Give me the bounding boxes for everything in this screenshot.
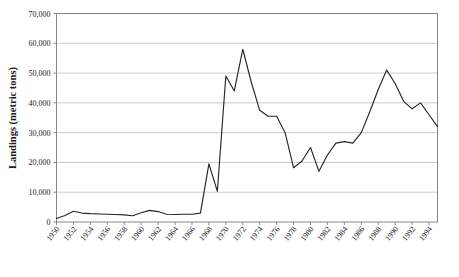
y-tick-label: 20,000 [29, 158, 51, 167]
line-chart: 010,00020,00030,00040,00050,00060,00070,… [0, 0, 459, 277]
y-tick-label: 10,000 [29, 188, 51, 197]
x-tick-label: 1976 [265, 225, 282, 243]
x-tick-label: 1954 [79, 225, 96, 243]
x-tick-label: 1962 [146, 225, 163, 243]
x-tick-label: 1974 [248, 225, 265, 243]
y-tick-label: 50,000 [29, 69, 51, 78]
x-tick-label: 1980 [299, 225, 316, 243]
x-tick-label: 1990 [383, 225, 400, 243]
x-tick-label: 1986 [349, 225, 366, 243]
y-tick-label: 0 [47, 218, 51, 227]
x-tick-label: 1956 [95, 225, 112, 243]
x-tick-label: 1992 [400, 225, 417, 243]
x-tick-label: 1994 [417, 225, 434, 243]
data-series-line [57, 49, 438, 218]
y-tick-label: 30,000 [29, 129, 51, 138]
x-axis-tick-labels: 1950195219541956195819601962196419661968… [45, 225, 434, 243]
x-tick-label: 1950 [45, 225, 62, 243]
plot-frame [57, 14, 438, 223]
y-tick-label: 70,000 [29, 10, 51, 19]
y-axis-title: Landings (metric tons) [7, 66, 19, 169]
x-tick-label: 1968 [197, 225, 214, 243]
x-tick-label: 1978 [282, 225, 299, 243]
x-tick-label: 1972 [231, 225, 248, 243]
y-tick-label: 60,000 [29, 39, 51, 48]
x-tick-label: 1964 [163, 225, 180, 243]
x-tick-label: 1988 [366, 225, 383, 243]
y-axis-tick-labels: 010,00020,00030,00040,00050,00060,00070,… [29, 10, 51, 228]
x-tick-label: 1958 [112, 225, 129, 243]
chart-container: 010,00020,00030,00040,00050,00060,00070,… [0, 0, 459, 277]
x-tick-label: 1966 [180, 225, 197, 243]
y-tick-label: 40,000 [29, 99, 51, 108]
x-tick-label: 1970 [214, 225, 231, 243]
x-tick-label: 1952 [62, 225, 79, 243]
x-tick-label: 1982 [316, 225, 333, 243]
x-tick-label: 1984 [333, 225, 350, 243]
x-tick-label: 1960 [129, 225, 146, 243]
